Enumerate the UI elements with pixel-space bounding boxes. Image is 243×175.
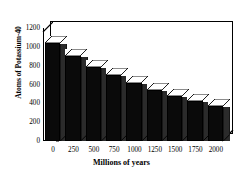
bar-front-face	[45, 43, 60, 141]
x-axis-title: Millions of years	[0, 158, 243, 167]
x-tick-label: 1750	[188, 146, 202, 154]
bar	[45, 43, 60, 141]
y-tick-label: 800	[16, 62, 40, 70]
bar-front-face	[187, 101, 202, 141]
bar-front-face	[106, 75, 121, 141]
y-tick-label: 200	[16, 118, 40, 126]
x-tick-label: 1500	[168, 146, 182, 154]
bar-front-face	[65, 56, 80, 141]
x-tick-label: 2000	[209, 146, 223, 154]
potassium-40-decay-bar-chart: Atoms of Potassium-40 020040060080010001…	[0, 0, 243, 175]
x-axis-tick-labels: 025050075010001250150017502000	[0, 146, 243, 158]
x-tick-label: 250	[68, 146, 79, 154]
y-tick-label: 1200	[16, 24, 40, 32]
bar-front-face	[126, 83, 141, 141]
bar-front-face	[86, 67, 101, 141]
bar	[187, 101, 202, 141]
bar	[147, 90, 162, 141]
bar	[167, 96, 182, 141]
x-tick-label: 500	[88, 146, 99, 154]
bar	[65, 56, 80, 141]
bar-front-face	[147, 90, 162, 141]
x-tick-label: 1000	[127, 146, 141, 154]
y-tick-label: 1000	[16, 43, 40, 51]
x-tick-label: 1250	[148, 146, 162, 154]
y-tick-label: 0	[16, 137, 40, 145]
bar-front-face	[208, 106, 223, 141]
x-tick-label: 0	[51, 146, 55, 154]
bar	[86, 67, 101, 141]
bar-series	[43, 21, 233, 141]
x-tick-label: 750	[109, 146, 120, 154]
bar	[106, 75, 121, 141]
y-tick-label: 600	[16, 81, 40, 89]
y-tick-label: 400	[16, 99, 40, 107]
bar	[126, 83, 141, 141]
bar	[208, 106, 223, 141]
bar-front-face	[167, 96, 182, 141]
